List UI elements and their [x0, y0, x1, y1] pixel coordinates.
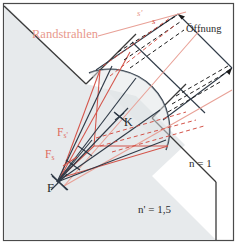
diagram-canvas	[0, 0, 237, 244]
optics-diagram-figure: Randstrahlen Öffnung s' s K Fs' Fs F n =…	[0, 0, 237, 244]
